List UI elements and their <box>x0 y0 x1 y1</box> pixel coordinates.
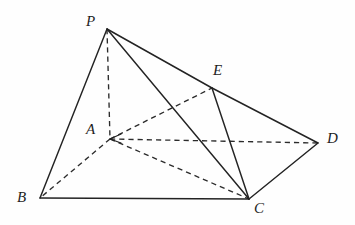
figure-canvas <box>0 0 355 225</box>
edge-A-E <box>110 88 212 139</box>
vertex-label-D: D <box>327 131 338 146</box>
edge-C-D <box>249 143 318 199</box>
edge-P-C <box>107 29 249 199</box>
edge-B-C <box>40 198 249 199</box>
edge-P-A <box>107 29 110 139</box>
edge-P-B <box>40 29 107 198</box>
edge-A-C <box>110 139 249 199</box>
vertex-label-B: B <box>17 190 26 205</box>
vertex-label-A: A <box>86 122 95 137</box>
edge-P-E <box>107 29 212 88</box>
edge-A-B <box>40 139 110 198</box>
vertex-label-E: E <box>213 63 222 78</box>
vertex-label-C: C <box>254 201 264 216</box>
vertex-label-P: P <box>86 14 95 29</box>
edge-A-D <box>110 139 318 143</box>
arrowhead-at-A-from-D <box>110 134 121 143</box>
geometry-figure: P E A D B C <box>0 0 355 225</box>
